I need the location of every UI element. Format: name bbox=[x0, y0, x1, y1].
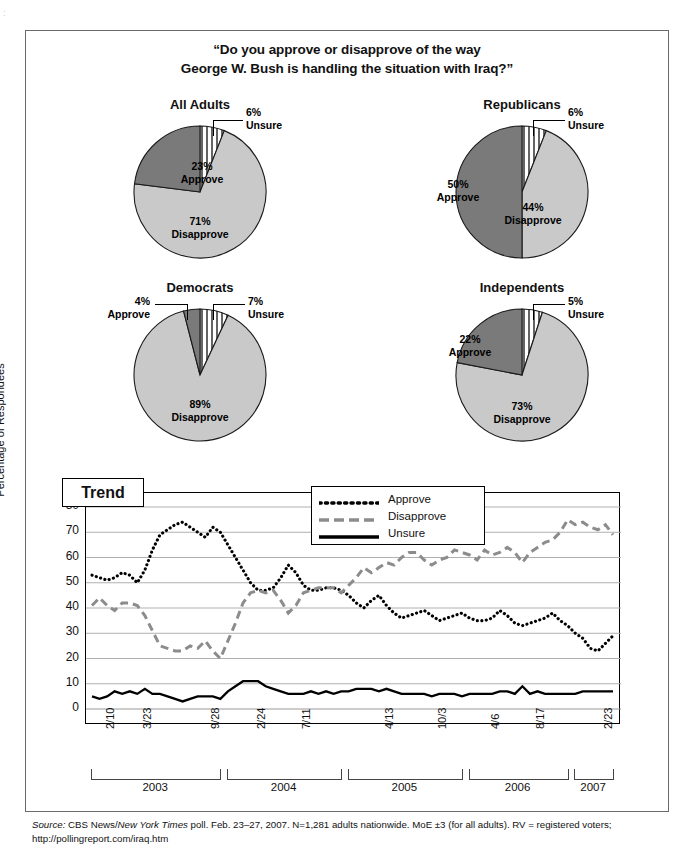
poll-infographic: : “Do you approve or disapprove of the w… bbox=[0, 0, 677, 847]
y-tick-60: 60 bbox=[45, 549, 79, 563]
year-bracket-2006 bbox=[469, 769, 569, 780]
x-tick-4-6: 4/6 bbox=[489, 714, 501, 729]
trend-legend: Approve Disapprove Unsure bbox=[311, 486, 485, 545]
y-tick-10: 10 bbox=[45, 675, 79, 689]
source-publication: New York Times bbox=[118, 819, 188, 830]
legend-swatch-approve bbox=[319, 494, 379, 504]
legend-label-approve: Approve bbox=[388, 493, 431, 505]
trend-y-axis-label: Percentage of Respondees bbox=[0, 340, 6, 520]
y-tick-70: 70 bbox=[45, 523, 79, 537]
year-label-2003: 2003 bbox=[91, 781, 219, 793]
source-text-b: poll. Feb. 23–27, 2007. N=1,281 adults n… bbox=[188, 819, 612, 830]
trend-label-text: Trend bbox=[81, 484, 125, 502]
y-tick-40: 40 bbox=[45, 599, 79, 613]
legend-item-unsure[interactable]: Unsure bbox=[312, 524, 484, 541]
legend-item-approve[interactable]: Approve bbox=[312, 490, 484, 507]
x-tick-8-17: 8/17 bbox=[534, 708, 546, 729]
source-text-a: CBS News/ bbox=[65, 819, 117, 830]
y-tick-50: 50 bbox=[45, 574, 79, 588]
source-footnote: Source: CBS News/New York Times poll. Fe… bbox=[32, 818, 662, 845]
source-url[interactable]: http://pollingreport.com/iraq.htm bbox=[32, 832, 662, 846]
trend-box-label: Trend bbox=[62, 478, 144, 507]
x-tick-7-11: 7/11 bbox=[300, 708, 312, 729]
legend-swatch-unsure bbox=[319, 528, 379, 538]
year-label-2004: 2004 bbox=[227, 781, 340, 793]
x-tick-3-23: 3/23 bbox=[141, 708, 153, 729]
page-title-line2: George W. Bush is handling the situation… bbox=[25, 59, 669, 78]
legend-label-disapprove: Disapprove bbox=[388, 510, 446, 522]
x-tick-9-28: 9/28 bbox=[209, 708, 221, 729]
year-bracket-2003 bbox=[91, 769, 221, 780]
x-tick-10-3: 10/3 bbox=[436, 708, 448, 729]
year-label-2005: 2005 bbox=[348, 781, 461, 793]
x-tick-2-24: 2/24 bbox=[255, 708, 267, 729]
y-tick-0: 0 bbox=[45, 700, 79, 714]
x-tick-2-10: 2/10 bbox=[104, 708, 116, 729]
y-tick-20: 20 bbox=[45, 650, 79, 664]
y-tick-30: 30 bbox=[45, 624, 79, 638]
x-tick-2-23: 2/23 bbox=[602, 708, 614, 729]
page-title: “Do you approve or disapprove of the way… bbox=[25, 40, 669, 78]
year-bracket-2004 bbox=[227, 769, 342, 780]
page-edge-mark: : bbox=[3, 8, 6, 18]
year-label-2007: 2007 bbox=[574, 781, 612, 793]
year-label-2006: 2006 bbox=[469, 781, 567, 793]
legend-label-unsure: Unsure bbox=[388, 527, 425, 539]
year-bracket-2007 bbox=[574, 769, 614, 780]
source-prefix: Source: bbox=[32, 819, 65, 830]
trend-line-unsure bbox=[92, 681, 613, 701]
x-tick-4-13: 4/13 bbox=[383, 708, 395, 729]
year-bracket-2005 bbox=[348, 769, 463, 780]
page-title-line1: “Do you approve or disapprove of the way bbox=[25, 40, 669, 59]
legend-item-disapprove[interactable]: Disapprove bbox=[312, 507, 484, 524]
legend-swatch-disapprove bbox=[319, 511, 379, 521]
